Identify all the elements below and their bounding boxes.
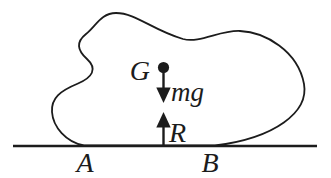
physics-diagram: G mg R A B xyxy=(0,0,331,178)
free-body-diagram-canvas: G mg R A B xyxy=(0,0,331,178)
label-contact-a: A xyxy=(74,147,94,178)
weight-arrow xyxy=(156,70,170,103)
weight-arrow-head xyxy=(156,88,170,104)
label-weight: mg xyxy=(171,77,204,107)
label-center-of-gravity: G xyxy=(130,55,150,86)
label-contact-b: B xyxy=(201,147,218,178)
label-reaction: R xyxy=(168,117,186,148)
